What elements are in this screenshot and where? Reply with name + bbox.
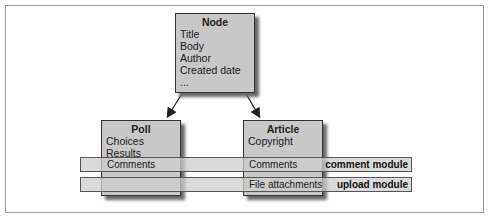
node-field-author: Author: [180, 52, 250, 64]
node-field-created-date: Created date: [180, 64, 250, 76]
node-field-ellipsis: ...: [180, 76, 250, 88]
poll-title: Poll: [106, 123, 176, 135]
node-box: Node Title Body Author Created date ...: [175, 13, 255, 93]
article-title: Article: [248, 123, 318, 135]
node-field-title: Title: [180, 28, 250, 40]
article-file-attachments-cell: File attachments: [249, 179, 322, 190]
arrow-node-to-poll: [168, 92, 183, 116]
comment-module-label: comment module: [325, 159, 408, 170]
node-title: Node: [180, 16, 250, 28]
comment-module-band: Comments Comments comment module: [80, 157, 412, 172]
article-field-copyright: Copyright: [248, 135, 318, 147]
arrow-node-to-article: [245, 92, 259, 116]
poll-field-choices: Choices: [106, 135, 176, 147]
upload-module-band: File attachments upload module: [80, 177, 412, 192]
poll-comments-cell: Comments: [107, 159, 155, 170]
upload-module-label: upload module: [337, 179, 408, 190]
node-field-body: Body: [180, 40, 250, 52]
article-comments-cell: Comments: [249, 159, 297, 170]
